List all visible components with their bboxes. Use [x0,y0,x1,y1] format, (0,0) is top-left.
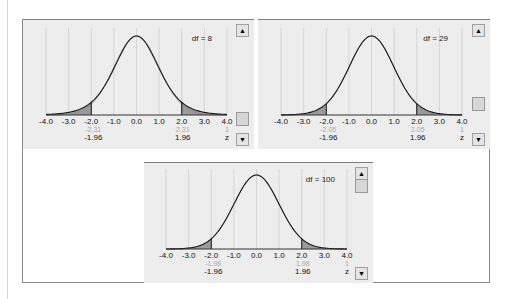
z-critical-pos: 1.96 [175,133,191,142]
x-tick-label: -3.0 [182,251,196,260]
df-label: df = 8 [192,34,212,43]
x-tick-label: 1.0 [154,117,166,126]
t-unit-label: 1 [225,126,229,133]
x-tick-label: 2.0 [296,251,308,260]
x-tick-label: 2.0 [176,117,188,126]
scroll-up-button[interactable]: ▲ [472,24,485,37]
t-critical-pos: 1.98 [296,260,310,267]
scroll-thumb[interactable] [236,112,249,126]
df-label: df = 29 [423,34,448,43]
density-plot: -4.0-3.0-2.0-1.00.01.02.03.04.0-1.981.98… [144,163,373,284]
x-tick-label: -1.0 [107,117,121,126]
t-critical-neg: -2.31 [85,126,101,133]
scroll-thumb[interactable] [355,179,368,193]
t-unit-label: 1 [345,260,349,267]
page-left-rule [7,0,8,299]
x-tick-label: 0.0 [366,117,378,126]
z-unit-label: z [345,267,349,276]
z-critical-neg: -1.96 [204,267,223,276]
t-critical-pos: 2.31 [176,126,190,133]
x-tick-label: 2.0 [411,117,423,126]
x-tick-label: 3.0 [199,117,211,126]
x-tick-label: 0.0 [131,117,143,126]
z-critical-pos: 1.96 [410,133,426,142]
x-tick-label: -1.0 [342,117,356,126]
x-tick-label: -2.0 [204,251,218,260]
x-tick-label: 4.0 [456,117,468,126]
df-scrollbar[interactable]: ▲▼ [236,24,250,146]
z-critical-neg: -1.96 [319,133,338,142]
x-tick-label: 4.0 [221,117,233,126]
df-scrollbar[interactable]: ▲▼ [472,24,486,146]
x-tick-label: 1.0 [274,251,286,260]
scroll-down-button[interactable]: ▼ [472,133,485,146]
density-plot: -4.0-3.0-2.0-1.00.01.02.03.04.0-2.312.31… [23,20,254,150]
t-critical-neg: -1.98 [205,260,221,267]
scroll-down-button[interactable]: ▼ [355,267,368,280]
x-tick-label: 4.0 [341,251,353,260]
x-tick-label: -3.0 [62,117,76,126]
t-critical-pos: 2.05 [411,126,425,133]
x-tick-label: -2.0 [319,117,333,126]
chart-panel-df29: -4.0-3.0-2.0-1.00.01.02.03.04.0-2.052.05… [258,19,490,149]
chart-panel-df100: -4.0-3.0-2.0-1.00.01.02.03.04.0-1.981.98… [144,162,373,283]
density-plot: -4.0-3.0-2.0-1.00.01.02.03.04.0-2.052.05… [258,20,490,150]
x-tick-label: -4.0 [159,251,173,260]
x-tick-label: -1.0 [227,251,241,260]
z-critical-neg: -1.96 [84,133,103,142]
z-unit-label: z [460,133,464,142]
x-tick-label: -2.0 [84,117,98,126]
x-tick-label: 0.0 [251,251,263,260]
chart-panel-df8: -4.0-3.0-2.0-1.00.01.02.03.04.0-2.312.31… [23,19,254,149]
x-tick-label: 1.0 [389,117,401,126]
scroll-thumb[interactable] [472,97,485,111]
x-tick-label: 3.0 [319,251,331,260]
scroll-down-button[interactable]: ▼ [236,133,249,146]
df-scrollbar[interactable]: ▲▼ [355,167,369,280]
x-tick-label: -4.0 [274,117,288,126]
t-critical-neg: -2.05 [320,126,336,133]
z-critical-pos: 1.96 [295,267,311,276]
t-unit-label: 1 [460,126,464,133]
x-tick-label: -3.0 [297,117,311,126]
scroll-up-button[interactable]: ▲ [236,24,249,37]
z-unit-label: z [225,133,229,142]
df-label: df = 100 [306,175,335,184]
x-tick-label: -4.0 [39,117,53,126]
x-tick-label: 3.0 [434,117,446,126]
